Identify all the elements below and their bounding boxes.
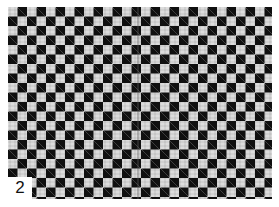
image-texture [8,7,272,199]
center-seam [137,7,139,199]
panel-label: 2 [8,177,32,199]
